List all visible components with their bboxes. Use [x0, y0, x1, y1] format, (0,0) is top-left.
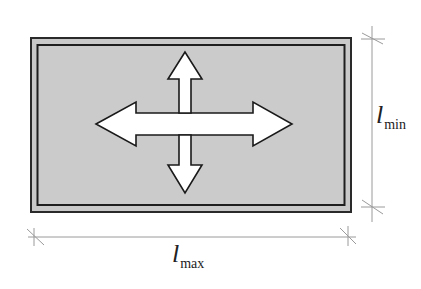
label-l-max-symbol: l — [172, 239, 179, 268]
slab-diagram — [0, 0, 421, 289]
label-l-max-subscript: max — [180, 256, 204, 271]
label-l-min-symbol: l — [376, 100, 383, 129]
label-l-min: lmin — [376, 100, 406, 130]
label-l-max: lmax — [172, 239, 204, 269]
label-l-min-subscript: min — [384, 117, 406, 132]
